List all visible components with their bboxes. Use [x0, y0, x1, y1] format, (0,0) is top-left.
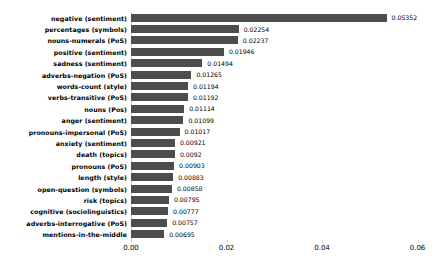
- bar-value-label: 0.02254: [244, 26, 270, 33]
- x-axis-tick: [418, 240, 419, 243]
- category-label: cognitive (sociolinguistics): [30, 208, 127, 215]
- bar-value-label: 0.00757: [172, 219, 198, 226]
- bar-container: 0.00903: [131, 162, 205, 170]
- bar-row: nouns-numerals (PoS)0.02237: [0, 35, 446, 46]
- bar-row: death (topics)0.0092: [0, 149, 446, 160]
- x-axis-tick: [227, 240, 228, 243]
- category-label: percentages (symbols): [45, 26, 127, 33]
- bar: [131, 25, 239, 33]
- bar-container: 0.00858: [131, 185, 203, 193]
- bar-value-label: 0.02237: [243, 37, 269, 44]
- bar: [131, 93, 188, 101]
- bar: [131, 230, 164, 238]
- bar-row: open-question (symbols)0.00858: [0, 183, 446, 194]
- bar-value-label: 0.00777: [173, 208, 199, 215]
- bar-row: anxiety (sentiment)0.00921: [0, 137, 446, 148]
- bar-container: 0.01017: [131, 128, 210, 136]
- category-label: anger (sentiment): [62, 117, 127, 124]
- bar-value-label: 0.0092: [180, 151, 202, 158]
- bar-row: verbs-transitive (PoS)0.01192: [0, 92, 446, 103]
- category-label: open-question (symbols): [38, 185, 127, 192]
- bar: [131, 82, 188, 90]
- bar-container: 0.01494: [131, 59, 233, 67]
- bar-container: 0.00777: [131, 207, 199, 215]
- bar-value-label: 0.00921: [180, 139, 206, 146]
- bar-row: nouns (Pos)0.01114: [0, 103, 446, 114]
- category-label: pronouns (PoS): [71, 162, 127, 169]
- category-label: length (style): [78, 174, 127, 181]
- category-label: nouns (Pos): [84, 105, 127, 112]
- category-label: risk (topics): [84, 196, 127, 203]
- x-axis-tick-label: 0.04: [314, 244, 330, 252]
- bar-row: positive (sentiment)0.01946: [0, 46, 446, 57]
- bar: [131, 173, 173, 181]
- bar-value-label: 0.01017: [185, 128, 211, 135]
- x-axis-tick-label: 0.02: [219, 244, 235, 252]
- bar-container: 0.0092: [131, 150, 202, 158]
- bar-value-label: 0.01194: [193, 83, 219, 90]
- bar-row: anger (sentiment)0.01099: [0, 115, 446, 126]
- category-label: anxiety (sentiment): [56, 139, 127, 146]
- bar-rows: negative (sentiment)0.05352percentages (…: [0, 12, 446, 240]
- category-label: sadness (sentiment): [53, 60, 127, 67]
- bar-row: cognitive (sociolinguistics)0.00777: [0, 206, 446, 217]
- x-axis-tick: [131, 240, 132, 243]
- bar-container: 0.00757: [131, 219, 198, 227]
- bar-row: length (style)0.00883: [0, 171, 446, 182]
- category-label: adverbs-negation (PoS): [42, 71, 127, 78]
- bar-container: 0.00883: [131, 173, 204, 181]
- bar-value-label: 0.01192: [193, 94, 219, 101]
- bar-value-label: 0.01265: [196, 71, 222, 78]
- bar: [131, 59, 202, 67]
- bar-row: adverbs-interrogative (PoS)0.00757: [0, 217, 446, 228]
- bar-container: 0.02254: [131, 25, 269, 33]
- bar-row: sadness (sentiment)0.01494: [0, 58, 446, 69]
- x-axis-tick-label: 0.00: [123, 244, 139, 252]
- bar-container: 0.01192: [131, 93, 219, 101]
- bar-container: 0.01265: [131, 71, 222, 79]
- bar-container: 0.02237: [131, 36, 268, 44]
- bar: [131, 207, 168, 215]
- bar-value-label: 0.00858: [177, 185, 203, 192]
- bar-container: 0.00921: [131, 139, 206, 147]
- bar-value-label: 0.01114: [189, 105, 215, 112]
- bar-row: pronouns (PoS)0.00903: [0, 160, 446, 171]
- bar-row: percentages (symbols)0.02254: [0, 23, 446, 34]
- bar-row: adverbs-negation (PoS)0.01265: [0, 69, 446, 80]
- category-label: negative (sentiment): [51, 14, 127, 21]
- bar-row: risk (topics)0.00795: [0, 194, 446, 205]
- x-axis: 0.000.020.040.06: [0, 240, 446, 271]
- bar: [131, 150, 175, 158]
- bar-row: negative (sentiment)0.05352: [0, 12, 446, 23]
- bar-value-label: 0.01494: [207, 60, 233, 67]
- bar-container: 0.01194: [131, 82, 219, 90]
- bar-container: 0.05352: [131, 14, 417, 22]
- bar: [131, 185, 172, 193]
- bar: [131, 139, 175, 147]
- x-axis-tick: [322, 240, 323, 243]
- category-label: death (topics): [76, 151, 127, 158]
- category-label: mentions-in-the-middle: [42, 231, 127, 238]
- category-label: verbs-transitive (PoS): [48, 94, 127, 101]
- bar: [131, 162, 174, 170]
- bar: [131, 14, 387, 22]
- bar-container: 0.00795: [131, 196, 200, 204]
- bar-row: pronouns-impersonal (PoS)0.01017: [0, 126, 446, 137]
- category-label: words-count (style): [57, 83, 127, 90]
- bar-row: words-count (style)0.01194: [0, 80, 446, 91]
- bar-chart: negative (sentiment)0.05352percentages (…: [0, 0, 446, 271]
- bar-value-label: 0.00795: [174, 196, 200, 203]
- category-label: pronouns-impersonal (PoS): [29, 128, 127, 135]
- bar-value-label: 0.05352: [392, 14, 418, 21]
- bar: [131, 128, 180, 136]
- bar: [131, 48, 224, 56]
- bar-value-label: 0.01099: [188, 117, 214, 124]
- bar-row: mentions-in-the-middle0.00695: [0, 228, 446, 239]
- bar-container: 0.01114: [131, 105, 215, 113]
- bar-container: 0.01099: [131, 116, 214, 124]
- category-label: positive (sentiment): [54, 48, 127, 55]
- bar: [131, 105, 184, 113]
- category-label: nouns-numerals (PoS): [47, 37, 127, 44]
- bar: [131, 196, 169, 204]
- bar-value-label: 0.00903: [179, 162, 205, 169]
